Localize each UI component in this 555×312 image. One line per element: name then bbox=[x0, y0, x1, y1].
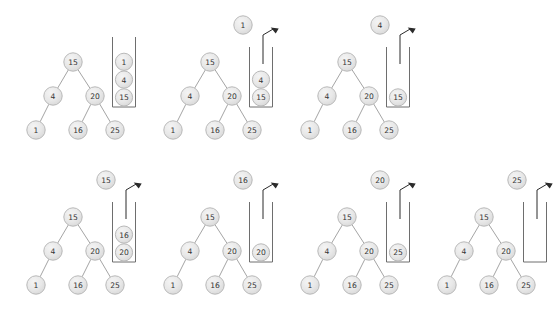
node-circle bbox=[234, 16, 252, 34]
node-circle bbox=[115, 226, 132, 243]
popped-node-25[interactable]: 25 bbox=[508, 171, 526, 189]
tree-node-16[interactable]: 16 bbox=[343, 121, 361, 139]
tree-node-16[interactable]: 16 bbox=[206, 121, 224, 139]
tree-edge bbox=[215, 225, 227, 244]
tree-edge bbox=[237, 259, 248, 277]
node-circle bbox=[252, 244, 269, 261]
panel-5: 11625420152016 bbox=[164, 171, 279, 294]
tree-node-1[interactable]: 1 bbox=[164, 276, 182, 294]
tree-edge bbox=[177, 104, 186, 122]
tree-edge bbox=[493, 259, 502, 277]
tree-node-16[interactable]: 16 bbox=[480, 276, 498, 294]
node-circle bbox=[252, 71, 269, 88]
tree-node-1[interactable]: 1 bbox=[301, 121, 319, 139]
tree-node-15[interactable]: 15 bbox=[338, 53, 356, 71]
stack-container: 15 bbox=[387, 47, 410, 107]
node-circle bbox=[44, 242, 62, 260]
tree-node-25[interactable]: 25 bbox=[106, 276, 124, 294]
arrow-shaft bbox=[263, 29, 273, 64]
node-circle bbox=[234, 171, 252, 189]
tree-node-15[interactable]: 15 bbox=[201, 53, 219, 71]
tree-node-4[interactable]: 4 bbox=[44, 242, 62, 260]
tree-node-16[interactable]: 16 bbox=[69, 276, 87, 294]
tree-node-1[interactable]: 1 bbox=[27, 276, 45, 294]
tree-node-4[interactable]: 4 bbox=[181, 242, 199, 260]
stack-item-4[interactable]: 4 bbox=[252, 71, 269, 88]
stack-container: 20 bbox=[250, 202, 273, 262]
node-circle bbox=[438, 276, 456, 294]
tree-node-1[interactable]: 1 bbox=[27, 121, 45, 139]
tree-node-15[interactable]: 15 bbox=[201, 208, 219, 226]
tree-node-15[interactable]: 15 bbox=[64, 208, 82, 226]
tree-node-1[interactable]: 1 bbox=[164, 121, 182, 139]
stack-item-15[interactable]: 15 bbox=[115, 89, 132, 106]
traversal-diagram: 1162542015141511625420154151116254201515… bbox=[0, 0, 555, 312]
tree-node-15[interactable]: 15 bbox=[64, 53, 82, 71]
stack-item-1[interactable]: 1 bbox=[115, 53, 132, 70]
pop-arrow bbox=[537, 183, 553, 220]
tree-node-4[interactable]: 4 bbox=[318, 87, 336, 105]
node-circle bbox=[243, 276, 261, 294]
arrow-shaft bbox=[537, 184, 547, 219]
tree-node-20[interactable]: 20 bbox=[360, 242, 378, 260]
node-circle bbox=[389, 244, 406, 261]
node-circle bbox=[44, 87, 62, 105]
tree-node-20[interactable]: 20 bbox=[497, 242, 515, 260]
tree-node-16[interactable]: 16 bbox=[343, 276, 361, 294]
node-circle bbox=[318, 87, 336, 105]
popped-node-1[interactable]: 1 bbox=[234, 16, 252, 34]
tree-edge bbox=[352, 225, 364, 244]
popped-node-4[interactable]: 4 bbox=[371, 16, 389, 34]
tree-node-4[interactable]: 4 bbox=[455, 242, 473, 260]
stack-item-20[interactable]: 20 bbox=[115, 244, 132, 261]
tree-edge bbox=[58, 225, 69, 243]
tree-node-20[interactable]: 20 bbox=[360, 87, 378, 105]
popped-node-15[interactable]: 15 bbox=[97, 171, 115, 189]
tree-node-1[interactable]: 1 bbox=[301, 276, 319, 294]
node-circle bbox=[360, 87, 378, 105]
tree-node-25[interactable]: 25 bbox=[106, 121, 124, 139]
node-circle bbox=[301, 276, 319, 294]
tree-node-4[interactable]: 4 bbox=[44, 87, 62, 105]
node-circle bbox=[27, 121, 45, 139]
stack-item-15[interactable]: 15 bbox=[252, 89, 269, 106]
tree-node-20[interactable]: 20 bbox=[223, 87, 241, 105]
arrow-shaft bbox=[126, 184, 136, 219]
binary-search-tree: 1162542015 bbox=[164, 208, 261, 294]
stack-item-20[interactable]: 20 bbox=[252, 244, 269, 261]
stack-item-25[interactable]: 25 bbox=[389, 244, 406, 261]
tree-edge bbox=[219, 259, 228, 277]
tree-node-16[interactable]: 16 bbox=[69, 121, 87, 139]
stack-item-16[interactable]: 16 bbox=[115, 226, 132, 243]
stack-item-15[interactable]: 15 bbox=[389, 89, 406, 106]
tree-node-25[interactable]: 25 bbox=[380, 121, 398, 139]
pop-arrow bbox=[400, 28, 416, 65]
tree-node-4[interactable]: 4 bbox=[181, 87, 199, 105]
tree-node-4[interactable]: 4 bbox=[318, 242, 336, 260]
node-circle bbox=[86, 87, 104, 105]
popped-node-20[interactable]: 20 bbox=[371, 171, 389, 189]
stack-item-4[interactable]: 4 bbox=[115, 71, 132, 88]
arrow-shaft bbox=[263, 184, 273, 219]
node-circle bbox=[360, 242, 378, 260]
tree-edge bbox=[314, 104, 323, 122]
tree-node-20[interactable]: 20 bbox=[223, 242, 241, 260]
tree-node-15[interactable]: 15 bbox=[475, 208, 493, 226]
node-circle bbox=[380, 276, 398, 294]
tree-node-25[interactable]: 25 bbox=[517, 276, 535, 294]
tree-node-25[interactable]: 25 bbox=[380, 276, 398, 294]
tree-node-1[interactable]: 1 bbox=[438, 276, 456, 294]
tree-node-25[interactable]: 25 bbox=[243, 121, 261, 139]
tree-node-15[interactable]: 15 bbox=[338, 208, 356, 226]
tree-node-20[interactable]: 20 bbox=[86, 87, 104, 105]
tree-node-16[interactable]: 16 bbox=[206, 276, 224, 294]
node-circle bbox=[371, 16, 389, 34]
tree-node-25[interactable]: 25 bbox=[243, 276, 261, 294]
popped-node-16[interactable]: 16 bbox=[234, 171, 252, 189]
diagram-canvas: 1162542015141511625420154151116254201515… bbox=[0, 0, 555, 312]
panel-7: 116254201525 bbox=[438, 171, 553, 294]
arrow-head bbox=[408, 28, 416, 34]
tree-edge bbox=[451, 259, 460, 277]
tree-node-20[interactable]: 20 bbox=[86, 242, 104, 260]
tree-edge bbox=[78, 225, 90, 244]
